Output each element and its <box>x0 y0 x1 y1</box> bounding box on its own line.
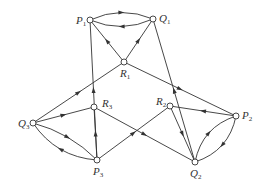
arrow-icon <box>75 89 82 96</box>
label-Q1: Q1 <box>159 12 171 26</box>
edge-Q3-P3 <box>33 123 97 160</box>
edges <box>33 10 236 162</box>
node-Q2 <box>192 159 198 165</box>
label-Q2: Q2 <box>190 167 202 181</box>
node-R1 <box>121 59 127 65</box>
arrow-icon <box>64 134 71 140</box>
label-P3: P3 <box>92 165 104 179</box>
node-Q1 <box>150 16 156 22</box>
node-R2 <box>167 103 173 109</box>
node-P3 <box>94 157 100 163</box>
arrow-icon <box>118 10 124 14</box>
node-P1 <box>87 17 93 23</box>
arrow-icon <box>60 112 67 117</box>
edge-P2-Q2 <box>195 116 236 162</box>
arrow-icon <box>93 130 97 136</box>
directed-graph: P1Q1R1Q3R3P3R2P2Q2 <box>0 0 265 191</box>
label-Q3: Q3 <box>18 117 30 131</box>
arrow-icon <box>119 24 125 28</box>
arrow-icon <box>179 130 185 137</box>
arrow-icon <box>57 146 64 152</box>
nodes: P1Q1R1Q3R3P3R2P2Q2 <box>18 12 253 181</box>
arrow-icon <box>141 131 148 137</box>
label-P2: P2 <box>241 109 253 123</box>
edge-P3-Q3 <box>33 123 97 160</box>
arrow-icon <box>91 87 95 93</box>
arrow-icon <box>176 86 183 92</box>
edge-Q1-P1 <box>90 19 153 27</box>
label-R3: R3 <box>101 97 113 111</box>
label-R1: R1 <box>119 67 131 81</box>
arrow-icon <box>171 87 177 94</box>
edge-P1-Q1 <box>90 12 153 20</box>
arrow-icon <box>135 37 142 44</box>
node-Q3 <box>30 120 36 126</box>
label-R2: R2 <box>155 95 167 109</box>
edge-Q2-P2 <box>195 116 236 162</box>
node-P2 <box>233 113 239 119</box>
node-R3 <box>91 104 97 110</box>
label-P1: P1 <box>75 14 87 28</box>
